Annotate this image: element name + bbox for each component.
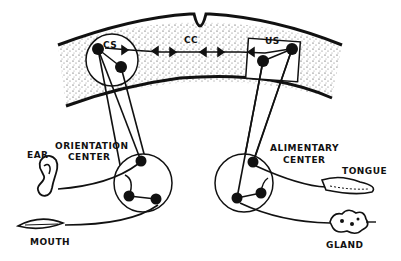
tongue-label: TONGUE — [342, 166, 387, 176]
ear-icon — [38, 156, 58, 196]
cs-label: CS — [103, 40, 117, 50]
alimentary-center-label-1: ALIMENTARY — [270, 143, 339, 153]
us-label: US — [265, 36, 280, 46]
peripheral-paths — [58, 164, 330, 225]
mouth-icon — [18, 219, 63, 228]
tongue-icon — [322, 177, 374, 193]
diagram-canvas — [0, 0, 401, 261]
ear-label: EAR — [27, 150, 49, 160]
gland-label: GLAND — [326, 240, 364, 250]
cc-label: CC — [184, 35, 198, 45]
mouth-label: MOUTH — [30, 237, 70, 247]
gland-icon — [330, 210, 376, 233]
orientation-center-label-1: ORIENTATION — [55, 141, 129, 151]
orientation-center-label-2: CENTER — [68, 152, 111, 162]
alimentary-center-label-2: CENTER — [283, 155, 326, 165]
